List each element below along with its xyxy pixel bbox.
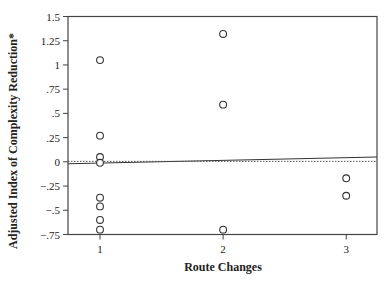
- data-point: [97, 203, 104, 210]
- data-point: [220, 101, 227, 108]
- reference-lines: [68, 157, 377, 164]
- y-tick-label: .75: [46, 83, 60, 95]
- y-tick-label: −.25: [40, 180, 60, 192]
- y-axis-ticks: 1.51.251.75.5.250−.25−.5−.75: [40, 11, 68, 241]
- data-point: [97, 57, 104, 64]
- x-axis-title: Route Changes: [184, 260, 262, 274]
- data-point: [97, 226, 104, 233]
- y-tick-label: 1: [55, 59, 61, 71]
- y-tick-label: .25: [46, 132, 60, 144]
- y-axis-title: Adjusted Index of Complexity Reduction*: [6, 33, 20, 249]
- plot-frame: [68, 17, 377, 235]
- x-tick-label: 1: [97, 243, 103, 255]
- data-points: [97, 31, 350, 234]
- data-point: [97, 159, 104, 166]
- data-point: [97, 194, 104, 201]
- y-tick-label: 1.5: [46, 11, 60, 23]
- x-tick-label: 2: [220, 243, 226, 255]
- regression-line: [68, 157, 377, 164]
- x-axis-ticks: 123: [97, 235, 349, 255]
- x-tick-label: 3: [343, 243, 349, 255]
- y-tick-label: 1.25: [41, 35, 61, 47]
- y-tick-label: −.75: [40, 229, 60, 241]
- data-point: [97, 132, 104, 139]
- y-tick-label: .5: [52, 107, 61, 119]
- data-point: [343, 175, 350, 182]
- data-point: [343, 192, 350, 199]
- data-point: [97, 217, 104, 224]
- data-point: [220, 226, 227, 233]
- y-tick-label: −.5: [46, 204, 61, 216]
- data-point: [220, 31, 227, 38]
- y-tick-label: 0: [55, 156, 61, 168]
- plot-border: [68, 17, 377, 235]
- scatter-chart: 1.51.251.75.5.250−.25−.5−.75 123 Route C…: [0, 0, 385, 281]
